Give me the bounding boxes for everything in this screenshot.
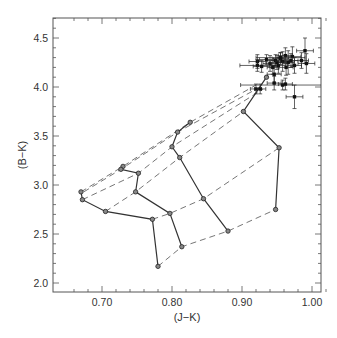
x-tick-labels: 0.700.800.901.00 xyxy=(92,296,323,308)
x-tick-label: 0.90 xyxy=(232,296,253,308)
y-tick-label: 4.0 xyxy=(33,81,48,93)
observed-marker xyxy=(293,64,296,67)
model-point xyxy=(277,146,281,150)
model-point xyxy=(170,145,174,149)
model-point xyxy=(178,155,182,159)
observed-marker xyxy=(303,49,306,52)
y-axis-title: (B−K) xyxy=(16,141,28,169)
model-point xyxy=(79,190,83,194)
y-tick-label: 3.5 xyxy=(33,130,48,142)
model-point xyxy=(188,120,192,124)
y-tick-label: 2.0 xyxy=(33,277,48,289)
y-tick-label: 4.5 xyxy=(33,32,48,44)
model-point xyxy=(264,75,268,79)
x-axis-title: (J−K) xyxy=(174,311,201,323)
model-point xyxy=(273,207,277,211)
x-tick-label: 0.80 xyxy=(162,296,183,308)
model-point xyxy=(133,190,137,194)
model-point xyxy=(136,171,140,175)
x-tick-label: 1.00 xyxy=(302,296,323,308)
x-tick-label: 0.70 xyxy=(92,296,113,308)
model-point xyxy=(119,167,123,171)
model-point xyxy=(103,209,107,213)
color-color-diagram: 0.700.800.901.00 2.02.53.03.54.04.5 (J−K… xyxy=(0,0,337,338)
model-point xyxy=(201,197,205,201)
model-point xyxy=(226,229,230,233)
observed-marker xyxy=(305,62,308,65)
observed-marker xyxy=(273,73,276,76)
observed-marker xyxy=(279,56,282,59)
model-point xyxy=(156,264,160,268)
observed-marker xyxy=(273,81,276,84)
model-point xyxy=(168,211,172,215)
y-tick-labels: 2.02.53.03.54.04.5 xyxy=(33,32,48,289)
y-tick-label: 2.5 xyxy=(33,228,48,240)
model-point xyxy=(175,130,179,134)
observed-marker xyxy=(284,82,287,85)
observed-marker xyxy=(300,59,303,62)
model-point xyxy=(241,109,245,113)
observed-marker xyxy=(259,87,262,90)
model-point xyxy=(180,245,184,249)
observed-marker xyxy=(293,95,296,98)
model-point xyxy=(80,198,84,202)
y-tick-label: 3.0 xyxy=(33,179,48,191)
model-point xyxy=(150,217,154,221)
